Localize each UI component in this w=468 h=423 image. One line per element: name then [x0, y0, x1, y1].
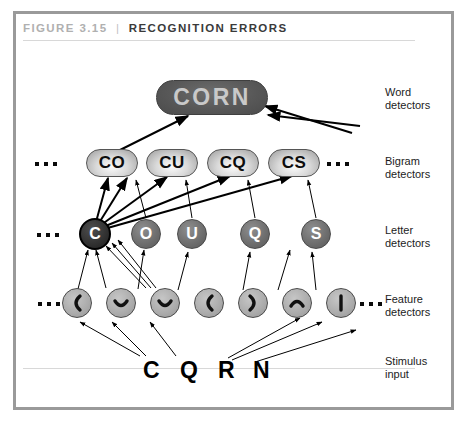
side-label-line-2: detectors: [385, 168, 430, 181]
feature-detector-bottom-curve-1[interactable]: [106, 288, 136, 318]
side-label-letter-detectors: Letter detectors: [385, 224, 430, 250]
side-label-line-1: Bigram: [385, 155, 430, 168]
feature-detector-right-paren-curve[interactable]: [238, 288, 268, 318]
feature-detector-top-curve[interactable]: [282, 288, 312, 318]
top-curve-icon: [286, 292, 308, 314]
bigram-right-ellipsis: [327, 162, 349, 166]
side-label-line-1: Stimulus: [385, 355, 427, 368]
stimulus-letter-q: Q: [180, 357, 198, 384]
bigram-detector-cu[interactable]: CU: [146, 149, 198, 177]
side-label-word-detectors: Word detectors: [385, 86, 430, 112]
feature-detector-bottom-curve-2[interactable]: [150, 288, 180, 318]
bigram-detector-co[interactable]: CO: [86, 149, 138, 177]
stimulus-letter-c: C: [143, 357, 160, 384]
word-detector-corn[interactable]: CORN: [156, 80, 268, 115]
stimulus-letter-r: R: [218, 357, 235, 384]
feature-detector-vertical-bar[interactable]: [326, 288, 356, 318]
letter-left-ellipsis: [37, 233, 59, 237]
bottom-curve-icon: [154, 292, 176, 314]
side-label-line-1: Feature: [385, 293, 430, 306]
side-label-line-2: detectors: [385, 306, 430, 319]
side-label-stimulus-input: Stimulus input: [385, 355, 427, 381]
bigram-detector-cs[interactable]: CS: [268, 149, 320, 177]
left-paren-curve-icon: [198, 292, 220, 314]
bigram-detector-cq[interactable]: CQ: [207, 149, 259, 177]
bigram-left-ellipsis: [35, 162, 57, 166]
side-label-line-2: detectors: [385, 237, 430, 250]
side-label-line-2: input: [385, 368, 427, 381]
side-label-line-2: detectors: [385, 99, 430, 112]
left-paren-curve-icon: [66, 292, 88, 314]
letter-detector-q[interactable]: Q: [240, 219, 270, 249]
right-paren-curve-icon: [242, 292, 264, 314]
feature-detector-left-paren-curve-2[interactable]: [194, 288, 224, 318]
side-label-line-1: Letter: [385, 224, 430, 237]
letter-detector-o[interactable]: O: [131, 219, 161, 249]
stimulus-letter-n: N: [253, 357, 270, 384]
side-label-line-1: Word: [385, 86, 430, 99]
vertical-bar-icon: [330, 292, 352, 314]
feature-right-ellipsis: [360, 302, 382, 306]
letter-detector-c[interactable]: C: [79, 218, 111, 250]
side-label-feature-detectors: Feature detectors: [385, 293, 430, 319]
letter-detector-s[interactable]: S: [301, 219, 331, 249]
side-label-bigram-detectors: Bigram detectors: [385, 155, 430, 181]
feature-detector-left-paren-curve-1[interactable]: [62, 288, 92, 318]
bottom-curve-icon: [110, 292, 132, 314]
feature-left-ellipsis: [38, 302, 60, 306]
letter-detector-u[interactable]: U: [177, 219, 207, 249]
